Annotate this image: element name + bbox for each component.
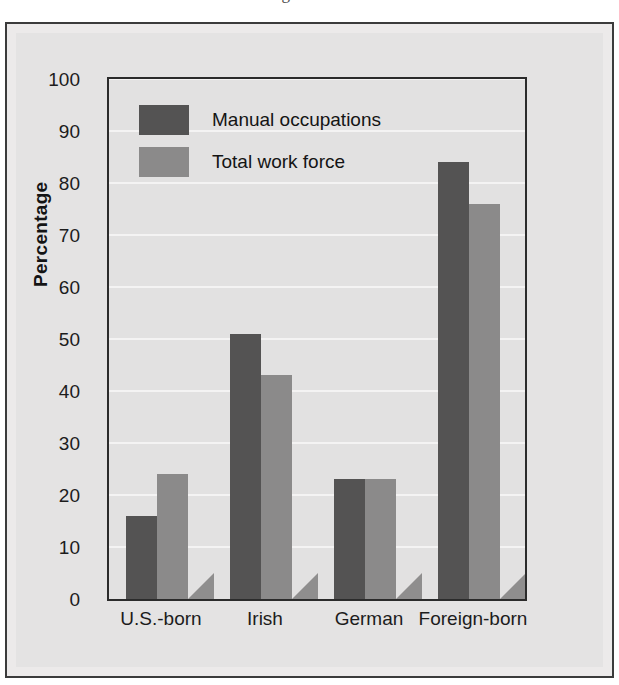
legend-swatch-total	[139, 147, 189, 177]
figure-frame: Percentage 1009080706050403020100 U.S.-b…	[5, 22, 614, 678]
y-tick-20: 20	[34, 486, 80, 505]
legend-label-manual: Manual occupations	[212, 109, 381, 131]
bar-german-total	[365, 479, 396, 599]
bar-foreign-born-manual	[438, 162, 469, 599]
gridline-100	[109, 79, 525, 80]
bar-irish-total	[261, 375, 292, 599]
bar-u-s-born-total	[157, 474, 188, 599]
y-tick-100: 100	[34, 70, 80, 89]
legend-label-total: Total work force	[212, 151, 345, 173]
y-tick-30: 30	[34, 434, 80, 453]
bar-foreign-born-total	[469, 204, 500, 599]
chart-canvas: Percentage 1009080706050403020100 U.S.-b…	[16, 33, 603, 667]
y-tick-90: 90	[34, 122, 80, 141]
page-header-text-clipped: and social environment for men of ages 1…	[0, 0, 619, 18]
y-tick-80: 80	[34, 174, 80, 193]
y-tick-70: 70	[34, 226, 80, 245]
x-tick-foreign-born: Foreign-born	[409, 608, 537, 630]
bar-german-manual	[334, 479, 365, 599]
bar-irish-manual	[230, 334, 261, 599]
plot-inner: Manual occupationsTotal work force	[109, 79, 525, 599]
legend-item-total: Total work force	[139, 145, 367, 179]
y-tick-40: 40	[34, 382, 80, 401]
bar-shadow-irish	[292, 573, 318, 599]
bar-shadow-u-s-born	[188, 573, 214, 599]
y-tick-50: 50	[34, 330, 80, 349]
legend-swatch-manual	[139, 105, 189, 135]
y-tick-0: 0	[34, 590, 80, 609]
page-header-text: and social environment for men of ages 1…	[28, 0, 354, 4]
bar-u-s-born-manual	[126, 516, 157, 599]
legend-item-manual: Manual occupations	[139, 103, 367, 137]
plot-area: Manual occupationsTotal work force	[107, 77, 527, 601]
bar-shadow-foreign-born	[500, 573, 525, 599]
y-tick-10: 10	[34, 538, 80, 557]
legend: Manual occupationsTotal work force	[139, 103, 367, 187]
bar-shadow-german	[396, 573, 422, 599]
y-tick-60: 60	[34, 278, 80, 297]
